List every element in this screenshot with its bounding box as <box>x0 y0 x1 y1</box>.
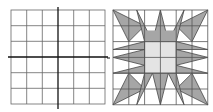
axes <box>8 7 108 109</box>
figure <box>0 0 213 112</box>
right-pattern <box>113 10 208 105</box>
